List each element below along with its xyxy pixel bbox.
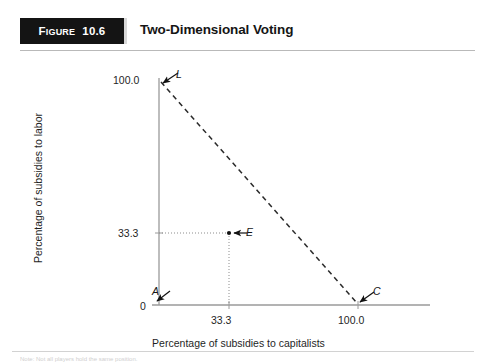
y-tick-label-100: 100.0: [113, 74, 139, 86]
figure-badge-number: 10.6: [82, 25, 105, 37]
budget-constraint-line: [161, 82, 357, 303]
figure-title: Two-Dimensional Voting: [140, 22, 293, 37]
y-tick-label-33: 33.3: [118, 227, 138, 239]
figure-header: Figure 10.6 Two-Dimensional Voting: [0, 0, 477, 52]
point-label-E: E: [246, 226, 253, 238]
y-axis-title: Percentage of subsidies to labor: [32, 88, 44, 288]
footer-divider: [12, 351, 474, 352]
chart-plot-area: 100.0 33.3 0 33.3 100.0 Percentage of su…: [0, 52, 477, 342]
x-axis-title: Percentage of subsidies to capitalists: [0, 337, 477, 349]
chart-canvas: [0, 52, 477, 342]
y-tick-label-0: 0: [140, 300, 146, 312]
x-tick-label-100: 100.0: [338, 314, 364, 326]
footer-caption: Note: Not all players hold the same posi…: [20, 356, 460, 364]
figure-badge-word: Figure: [39, 25, 76, 37]
figure-number-badge: Figure 10.6: [20, 18, 124, 44]
annotation-arrow-C: [360, 292, 374, 302]
point-label-L: L: [176, 68, 182, 80]
data-point-E: [227, 231, 231, 235]
x-tick-label-33: 33.3: [211, 314, 231, 326]
point-label-A: A: [152, 285, 159, 297]
point-label-C: C: [373, 285, 381, 297]
header-divider: [20, 50, 475, 51]
